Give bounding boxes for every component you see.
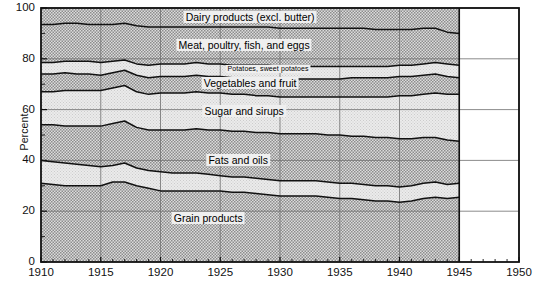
series-label-dairy-products-excl-butter: Dairy products (excl. butter): [184, 11, 317, 23]
x-tick-1930: 1930: [258, 266, 302, 278]
series-label-fats-and-oils: Fats and oils: [206, 154, 270, 166]
x-tick-1945: 1945: [437, 266, 481, 278]
y-tick-20: 20: [5, 204, 35, 216]
x-tick-1925: 1925: [198, 266, 242, 278]
x-tick-1950: 1950: [497, 266, 541, 278]
x-tick-1910: 1910: [19, 266, 63, 278]
series-label-sugar-and-sirups: Sugar and sirups: [202, 105, 285, 117]
stacked-area-chart: Percent 020406080100 1910191519201925193…: [0, 0, 543, 292]
y-tick-100: 100: [5, 1, 35, 13]
y-tick-60: 60: [5, 103, 35, 115]
series-label-meat-poultry-fish-and-eggs: Meat, poultry, fish, and eggs: [177, 39, 312, 51]
series-label-potatoes-sweet-potatoes: Potatoes, sweet potatoes: [226, 65, 311, 73]
series-label-vegetables-and-fruit: Vegetables and fruit: [202, 77, 299, 89]
y-tick-40: 40: [5, 153, 35, 165]
series-label-grain-products: Grain products: [172, 212, 245, 224]
x-tick-1940: 1940: [378, 266, 422, 278]
y-tick-80: 80: [5, 52, 35, 64]
x-tick-1915: 1915: [79, 266, 123, 278]
x-tick-1935: 1935: [318, 266, 362, 278]
x-tick-1920: 1920: [139, 266, 183, 278]
